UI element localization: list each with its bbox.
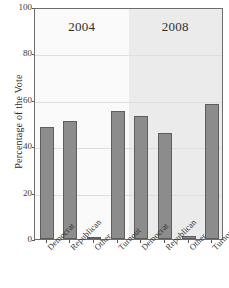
bar <box>205 104 219 239</box>
bar <box>40 127 54 239</box>
panel-title-2004: 2004 <box>35 19 129 35</box>
y-tick-label: 60 <box>8 96 32 105</box>
bar <box>134 116 148 239</box>
bar-chart: Percentage of the Vote 020406080100 2004… <box>0 0 229 288</box>
y-tick-label: 0 <box>8 235 32 244</box>
bar <box>111 111 125 239</box>
gridline <box>35 102 222 103</box>
y-tick-label: 40 <box>8 142 32 151</box>
y-tick-label: 100 <box>8 3 32 12</box>
plot-area: 2004 2008 <box>34 8 223 240</box>
y-axis: 020406080100 <box>0 0 32 288</box>
gridline <box>35 55 222 56</box>
panel-title-2008: 2008 <box>129 19 223 35</box>
y-tick-mark <box>32 240 35 241</box>
y-tick-label: 80 <box>8 49 32 58</box>
y-tick-label: 20 <box>8 189 32 198</box>
